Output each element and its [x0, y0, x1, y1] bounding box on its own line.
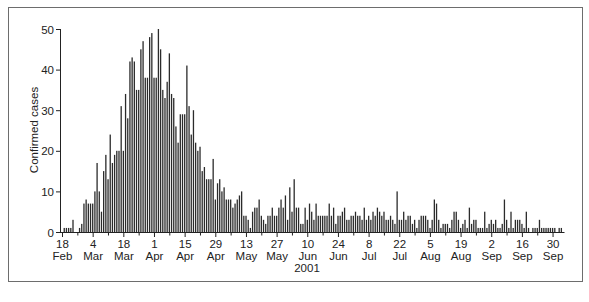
x-tick-label-day: 1 — [151, 238, 157, 250]
x-tick-label-month: Feb — [53, 250, 73, 262]
bar — [213, 159, 214, 232]
bar — [429, 228, 430, 232]
bar — [372, 212, 373, 232]
bar — [379, 212, 380, 232]
x-tick-label-month: Aug — [451, 250, 471, 262]
bar — [412, 224, 413, 232]
bar — [493, 224, 494, 232]
bar — [513, 228, 514, 232]
bar — [287, 220, 288, 232]
bar — [81, 224, 82, 232]
bar — [313, 220, 314, 232]
y-axis-ticks: 01020304050 — [41, 24, 60, 239]
bar — [173, 98, 174, 232]
bar — [366, 220, 367, 232]
bar — [436, 204, 437, 232]
bar — [438, 220, 439, 232]
bar — [361, 220, 362, 232]
bar — [340, 216, 341, 232]
x-tick-label-month: Sep — [512, 250, 532, 262]
bar — [416, 228, 417, 232]
bar — [195, 143, 196, 232]
bar — [171, 94, 172, 232]
bar — [506, 220, 507, 232]
x-tick-label-month: Aug — [420, 250, 440, 262]
bar — [145, 78, 146, 232]
bar — [177, 143, 178, 232]
bar — [510, 212, 511, 232]
bar — [355, 212, 356, 232]
bar — [129, 61, 130, 232]
bar — [394, 224, 395, 232]
bar — [278, 208, 279, 232]
bar — [315, 204, 316, 232]
bar — [425, 216, 426, 232]
x-axis-ticks: 18Feb4Mar18Mar1Apr15Apr29Apr13May27May10… — [53, 233, 564, 263]
bar — [537, 228, 538, 232]
bar — [432, 220, 433, 232]
bar — [272, 208, 273, 232]
bar — [399, 220, 400, 232]
bar — [94, 191, 95, 232]
bar — [156, 78, 157, 232]
bar — [381, 216, 382, 232]
x-axis-label: 2001 — [294, 262, 320, 274]
bar — [307, 220, 308, 232]
bar — [274, 216, 275, 232]
bar — [462, 224, 463, 232]
bar — [447, 224, 448, 232]
bar — [464, 220, 465, 232]
bar — [353, 216, 354, 232]
bar — [552, 228, 553, 232]
bar — [250, 228, 251, 232]
x-tick-label-day: 10 — [301, 238, 314, 250]
bar — [543, 228, 544, 232]
y-axis-label: Confirmed cases — [28, 87, 40, 174]
bar — [199, 147, 200, 232]
x-tick-label-month: Jul — [392, 250, 407, 262]
bar — [164, 98, 165, 232]
bar — [228, 200, 229, 232]
bar — [206, 179, 207, 232]
bar — [326, 216, 327, 232]
bar — [445, 224, 446, 232]
bar — [545, 228, 546, 232]
bar — [64, 228, 65, 232]
bar — [471, 224, 472, 232]
x-tick-label-month: Apr — [207, 250, 225, 262]
bar — [110, 135, 111, 232]
bar — [322, 216, 323, 232]
x-tick-label-day: 2 — [489, 238, 495, 250]
bar — [83, 204, 84, 232]
bar — [359, 216, 360, 232]
bar — [197, 151, 198, 232]
bar — [559, 228, 560, 232]
bar — [66, 228, 67, 232]
x-tick-label-month: Apr — [146, 250, 164, 262]
x-tick-label-day: 13 — [240, 238, 253, 250]
bar — [160, 49, 161, 232]
bar — [153, 78, 154, 232]
bar — [304, 208, 305, 232]
x-tick-label-day: 18 — [117, 238, 130, 250]
bar — [440, 228, 441, 232]
bar — [497, 228, 498, 232]
bar — [72, 220, 73, 232]
bar — [309, 204, 310, 232]
bar — [548, 228, 549, 232]
bar — [263, 220, 264, 232]
bar — [350, 216, 351, 232]
bar — [473, 220, 474, 232]
bar — [188, 106, 189, 232]
bar — [79, 228, 80, 232]
bar — [541, 228, 542, 232]
bar — [521, 224, 522, 232]
bar — [184, 114, 185, 232]
bar — [125, 94, 126, 232]
bar — [469, 208, 470, 232]
x-tick-label-day: 19 — [455, 238, 468, 250]
x-tick-label-day: 8 — [366, 238, 372, 250]
x-tick-label-day: 24 — [332, 238, 345, 250]
bar — [344, 208, 345, 232]
bar — [460, 228, 461, 232]
